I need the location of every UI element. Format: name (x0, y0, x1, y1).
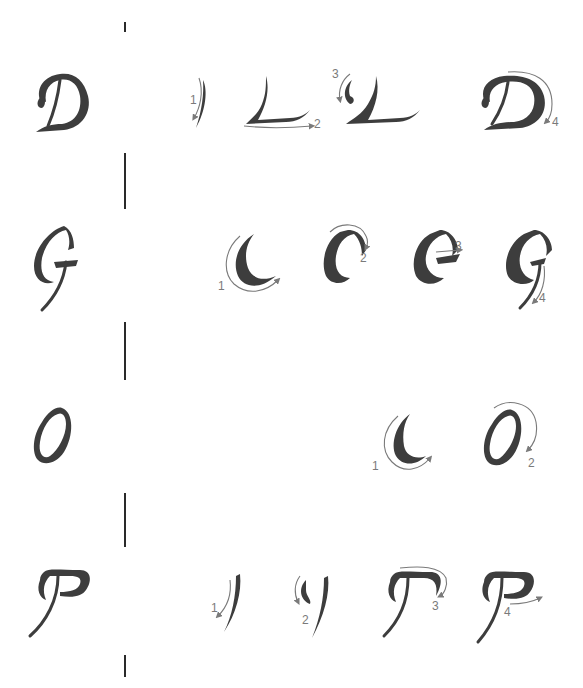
step-number: 2 (302, 613, 309, 627)
step-number: 3 (432, 599, 439, 613)
letter-d-complete (36, 74, 89, 132)
letter-g-step-4: 4 (506, 230, 552, 308)
letter-d-step-3: 3 (332, 67, 420, 124)
step-number: 2 (314, 117, 321, 131)
step-number: 4 (539, 291, 546, 305)
step-number: 1 (211, 601, 218, 615)
letter-g-step-3: 3 (414, 230, 462, 284)
step-number: 4 (504, 605, 511, 619)
step-number: 1 (218, 279, 225, 293)
letter-p-step-4: 4 (478, 572, 540, 643)
step-number: 4 (552, 115, 559, 129)
letter-o-step-2: 2 (484, 403, 537, 470)
step-number: 1 (190, 93, 197, 107)
letter-d-step-1: 1 (190, 78, 206, 128)
stroke-order-diagram: 1 2 3 4 1 2 3 (0, 0, 583, 688)
letter-p-step-2: 2 (295, 576, 328, 638)
letter-p-step-3: 3 (384, 567, 447, 636)
step-number: 2 (360, 251, 367, 265)
letter-o-step-1: 1 (372, 414, 430, 473)
letter-o-complete (34, 408, 71, 464)
step-number: 3 (332, 67, 339, 81)
letter-g-complete (34, 226, 78, 310)
letter-d-step-2: 2 (244, 76, 321, 131)
step-number: 1 (372, 459, 379, 473)
letter-p-step-1: 1 (211, 574, 240, 632)
letter-g-step-1: 1 (218, 234, 278, 293)
letter-g-step-2: 2 (324, 225, 368, 283)
letter-d-step-4: 4 (482, 72, 560, 130)
step-number: 3 (455, 239, 462, 253)
step-number: 2 (528, 456, 535, 470)
letter-p-complete (30, 570, 90, 637)
